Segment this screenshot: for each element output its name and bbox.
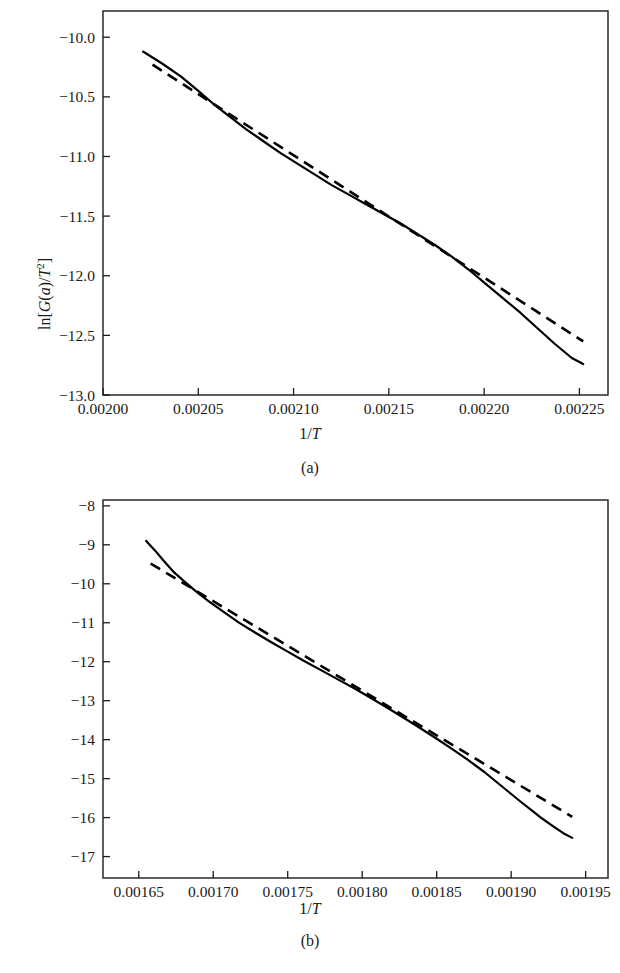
y-axis-tick-label: −11.0: [60, 148, 96, 165]
y-axis-tick-label: −12.0: [59, 267, 95, 284]
series-linear-fit: [151, 564, 573, 817]
plot-frame: [103, 11, 608, 395]
y-axis-tick-label: −10.5: [59, 88, 95, 105]
y-axis-tick-label: −13: [71, 692, 95, 709]
y-axis-tick-label: −14: [71, 731, 95, 748]
x-axis-tick-label: 0.00175: [263, 883, 314, 900]
y-axis-tick-label: −12.5: [59, 327, 95, 344]
y-axis-tick-label: −16: [71, 809, 95, 826]
series-experimental: [143, 52, 583, 364]
x-axis-tick-label: 0.00180: [337, 883, 388, 900]
y-axis-tick-label: −11.5: [60, 208, 96, 225]
y-axis-tick-label: −9: [79, 536, 96, 553]
panel-caption-b: (b): [0, 932, 620, 950]
x-axis-tick-label: 0.00195: [560, 883, 611, 900]
y-axis-tick-label: −13.0: [59, 387, 95, 404]
y-axis-tick-label: −11: [71, 614, 95, 631]
x-axis-tick-label: 0.00205: [173, 400, 224, 417]
x-axis-tick-label: 0.00225: [554, 400, 605, 417]
x-axis-tick-label: 0.00215: [364, 400, 415, 417]
y-axis-tick-label: −17: [71, 848, 95, 865]
panel-caption-a: (a): [0, 459, 620, 477]
x-axis-tick-label: 0.00210: [268, 400, 319, 417]
y-axis-tick-label: −10.0: [59, 29, 95, 46]
figure-page: 0.002000.002050.002100.002150.002200.002…: [0, 0, 620, 973]
y-axis-tick-label: −12: [71, 653, 95, 670]
series-linear-fit: [153, 65, 584, 342]
x-axis-title-b: 1/T: [0, 900, 620, 918]
x-axis-tick-label: 0.00165: [114, 883, 165, 900]
plot-b: 0.001650.001700.001750.001800.001850.001…: [0, 490, 620, 900]
x-axis-title-a: 1/T: [0, 425, 620, 443]
y-axis-tick-label: −10: [71, 575, 95, 592]
x-axis-tick-label: 0.00220: [459, 400, 510, 417]
chart-panel-a: 0.002000.002050.002100.002150.002200.002…: [0, 0, 620, 490]
x-axis-tick-label: 0.00170: [188, 883, 239, 900]
chart-panel-b: 0.001650.001700.001750.001800.001850.001…: [0, 490, 620, 973]
x-axis-tick-label: 0.00190: [486, 883, 537, 900]
y-axis-tick-label: −15: [71, 770, 95, 787]
plot-a: 0.002000.002050.002100.002150.002200.002…: [0, 0, 620, 420]
y-axis-title-a: ln[G(a)/T2]: [34, 258, 54, 330]
y-axis-tick-label: −8: [79, 497, 96, 514]
x-axis-tick-label: 0.00185: [411, 883, 462, 900]
